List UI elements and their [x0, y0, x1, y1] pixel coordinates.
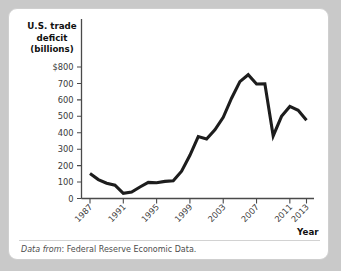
y-axis-tick-group: [77, 67, 82, 199]
x-axis-tick-label: 1999: [172, 202, 194, 224]
x-axis-tick-label: 1991: [106, 202, 128, 224]
y-axis-tick-label: 700: [58, 79, 74, 89]
caption-text: Federal Reserve Economic Data.: [67, 245, 197, 254]
x-axis-label-group: 19871991199519992003200720112013: [73, 202, 311, 224]
y-axis-label-group: 0100200300400500600700$800: [52, 62, 73, 204]
x-axis-tick-label: 2003: [206, 202, 228, 224]
y-axis-tick-label: 200: [58, 161, 74, 171]
x-axis-tick-label: 2013: [289, 202, 311, 224]
y-axis-tick-label: $800: [52, 62, 73, 72]
x-axis-tick-label: 1987: [73, 202, 95, 224]
y-axis-tick-label: 400: [58, 128, 74, 138]
source-caption: Data from: Federal Reserve Economic Data…: [21, 245, 196, 254]
y-axis-tick-label: 0: [68, 194, 73, 204]
chart-panel: U.S. trade deficit (billions) 0100200300…: [8, 8, 329, 260]
plot-area: 0100200300400500600700$800 1987199119951…: [9, 9, 329, 260]
x-axis-tick-group: [90, 199, 307, 204]
y-axis-tick-label: 300: [58, 144, 74, 154]
x-axis-tick-label: 2011: [272, 202, 294, 224]
caption-prefix: Data from: [21, 245, 61, 254]
x-axis-tick-label: 2007: [239, 202, 261, 224]
x-axis-title: Year: [297, 227, 319, 237]
y-axis-tick-label: 100: [58, 177, 74, 187]
caption-divider: [19, 240, 320, 241]
y-axis-tick-label: 500: [58, 111, 74, 121]
line-chart-svg: 0100200300400500600700$800 1987199119951…: [9, 9, 329, 260]
y-axis-tick-label: 600: [58, 95, 74, 105]
x-axis-tick-label: 1995: [139, 202, 161, 224]
data-series-line: [90, 75, 307, 194]
